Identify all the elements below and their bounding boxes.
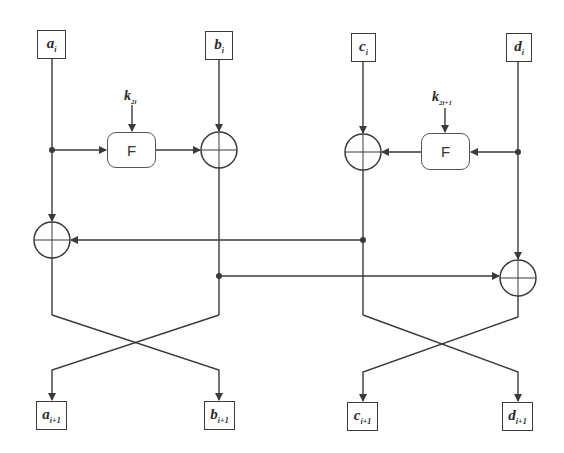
round-function-f-left: F — [107, 132, 156, 168]
feistel-round-diagram: ai bi ci di k2i k2i+1 F F ai+1 bi+1 ci+1… — [0, 0, 564, 453]
input-c-var: c — [359, 38, 366, 54]
input-c-sub: i — [366, 48, 368, 57]
round-function-f-right: F — [421, 133, 470, 170]
xor-icon-d — [500, 260, 536, 296]
output-b-sub: i+1 — [218, 416, 229, 425]
output-a-var: a — [42, 406, 50, 422]
output-box-b: bi+1 — [204, 401, 235, 430]
output-a-sub: i+1 — [50, 416, 61, 425]
input-box-d: di — [506, 33, 532, 62]
junction-dot-d — [515, 149, 521, 155]
input-d-sub: i — [522, 48, 524, 57]
input-box-c: ci — [351, 33, 376, 62]
input-b-sub: i — [222, 46, 224, 55]
xor-icon-c — [345, 134, 381, 170]
wire-cross-b-to-a-out — [52, 315, 219, 400]
input-box-a: ai — [37, 30, 66, 59]
key-label-2i1: k2i+1 — [432, 89, 452, 107]
output-box-a: ai+1 — [36, 401, 67, 430]
junction-dot-a — [49, 147, 55, 153]
output-box-c: ci+1 — [347, 402, 378, 431]
output-d-sub: i+1 — [516, 417, 527, 426]
wire-cross-d-to-c-out — [363, 317, 518, 401]
output-b-var: b — [210, 406, 218, 422]
input-a-var: a — [47, 35, 55, 51]
wire-cross-a-to-b-out — [52, 315, 219, 400]
junction-dot-b — [216, 273, 222, 279]
input-b-var: b — [214, 36, 222, 52]
output-c-sub: i+1 — [360, 417, 371, 426]
wire-cross-c-to-d-out — [363, 315, 518, 401]
xor-icon-b — [201, 132, 237, 168]
output-d-var: d — [508, 407, 516, 423]
xor-icon-a — [34, 222, 70, 258]
input-a-sub: i — [54, 45, 56, 54]
input-d-var: d — [514, 38, 522, 54]
key-label-2i: k2i — [124, 88, 136, 106]
output-box-d: di+1 — [502, 402, 533, 431]
input-box-b: bi — [205, 31, 233, 60]
diagram-wires — [0, 0, 564, 453]
junction-dot-c — [360, 237, 366, 243]
